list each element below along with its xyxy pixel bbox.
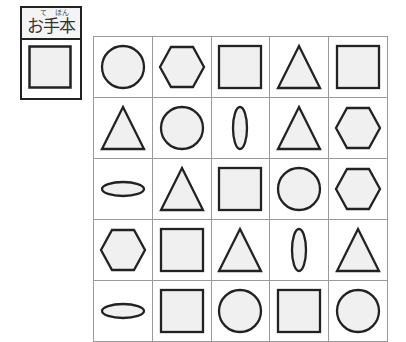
- grid-cell[interactable]: [329, 220, 388, 281]
- grid-cell[interactable]: [152, 159, 211, 220]
- hexagon-icon: [334, 104, 382, 152]
- square-icon: [216, 165, 264, 213]
- hexagon-icon: [99, 226, 147, 274]
- model-title: て ほん お手本: [22, 8, 80, 40]
- grid-cell[interactable]: [270, 220, 329, 281]
- circle-icon: [158, 104, 206, 152]
- grid-cell[interactable]: [94, 37, 153, 98]
- grid-cell[interactable]: [94, 281, 153, 342]
- grid-row: [94, 159, 388, 220]
- grid-cell[interactable]: [329, 98, 388, 159]
- model-label: お手本: [23, 16, 79, 36]
- grid-cell[interactable]: [211, 37, 270, 98]
- square-icon: [158, 226, 206, 274]
- ellipse-horizontal-icon: [99, 165, 147, 213]
- triangle-icon: [275, 104, 323, 152]
- triangle-icon: [334, 226, 382, 274]
- circle-icon: [275, 165, 323, 213]
- grid-cell[interactable]: [152, 220, 211, 281]
- grid-cell[interactable]: [94, 220, 153, 281]
- ellipse-vertical-icon: [216, 104, 264, 152]
- grid-cell[interactable]: [152, 281, 211, 342]
- model-example-box: て ほん お手本: [20, 6, 82, 100]
- ellipse-vertical-icon: [275, 226, 323, 274]
- triangle-icon: [158, 165, 206, 213]
- grid-cell[interactable]: [94, 159, 153, 220]
- grid-cell[interactable]: [152, 37, 211, 98]
- triangle-icon: [216, 226, 264, 274]
- circle-icon: [99, 43, 147, 91]
- model-square-icon: [28, 45, 72, 89]
- grid-cell[interactable]: [211, 220, 270, 281]
- grid-row: [94, 281, 388, 342]
- grid-cell[interactable]: [329, 281, 388, 342]
- grid-cell[interactable]: [270, 98, 329, 159]
- shape-grid: [93, 36, 388, 336]
- grid-row: [94, 37, 388, 98]
- grid-cell[interactable]: [270, 281, 329, 342]
- square-icon: [334, 43, 382, 91]
- triangle-icon: [99, 104, 147, 152]
- hexagon-icon: [334, 165, 382, 213]
- grid-cell[interactable]: [329, 37, 388, 98]
- grid-cell[interactable]: [329, 159, 388, 220]
- grid-row: [94, 220, 388, 281]
- hexagon-icon: [158, 43, 206, 91]
- triangle-icon: [275, 43, 323, 91]
- circle-icon: [216, 287, 264, 335]
- grid-cell[interactable]: [211, 281, 270, 342]
- grid-cell[interactable]: [94, 98, 153, 159]
- square-icon: [275, 287, 323, 335]
- grid-cell[interactable]: [211, 98, 270, 159]
- circle-icon: [334, 287, 382, 335]
- square-icon: [216, 43, 264, 91]
- shape-table: [93, 36, 388, 342]
- square-icon: [158, 287, 206, 335]
- grid-cell[interactable]: [152, 98, 211, 159]
- grid-row: [94, 98, 388, 159]
- ellipse-horizontal-icon: [99, 287, 147, 335]
- grid-cell[interactable]: [270, 159, 329, 220]
- grid-cell[interactable]: [270, 37, 329, 98]
- grid-cell[interactable]: [211, 159, 270, 220]
